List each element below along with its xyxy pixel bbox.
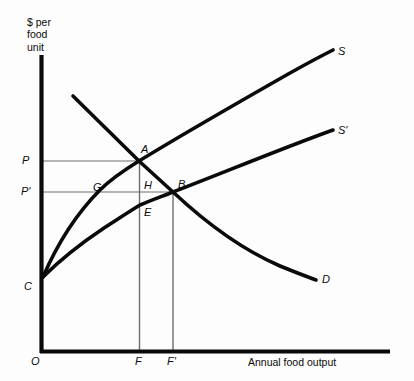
point-label-e: E xyxy=(144,206,151,219)
y-axis-title: $ per food unit xyxy=(27,16,51,53)
quantity-label-f: F xyxy=(135,355,142,368)
supply-demand-figure: $ per food unit Annual food output O P P… xyxy=(0,0,414,381)
quantity-label-f-prime: F' xyxy=(167,355,176,368)
x-axis-title: Annual food output xyxy=(248,356,336,368)
curve-label-s: S xyxy=(338,45,345,58)
point-label-g: G xyxy=(93,181,102,194)
origin-label: O xyxy=(31,355,40,368)
price-label-p: P xyxy=(22,154,29,167)
curve-label-d: D xyxy=(322,273,330,286)
demand-curve-d xyxy=(73,96,316,280)
point-label-h: H xyxy=(144,179,152,192)
point-label-a: A xyxy=(141,143,148,156)
supply-curve-s xyxy=(43,50,333,277)
curve-label-s-prime: S' xyxy=(338,124,347,137)
point-label-b: B xyxy=(178,178,185,191)
point-label-c: C xyxy=(24,280,32,293)
price-label-p-prime: P' xyxy=(21,185,30,198)
diagram-canvas xyxy=(0,0,414,381)
